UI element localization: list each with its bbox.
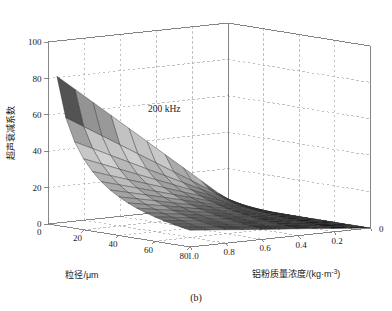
y-tick-0.6: 0.6 [259,243,271,253]
z-axis-title: 超声衰减系数 [5,106,16,160]
x-tick-40: 40 [109,239,119,249]
z-tick-80: 80 [33,74,43,84]
y-tick-0.2: 0.2 [331,236,342,246]
y-tick-0: 0 [379,224,384,234]
figure-3d-surface-plot: 1008060402002040608001.00.80.60.40.20 铝粉… [0,0,392,311]
surface-mesh [57,76,370,230]
y-axis-title: 铝粉质量浓度/(kg·m-3) [252,268,340,280]
x-tick-60: 60 [144,245,154,255]
x-axis-title: 粒径/μm [65,269,98,280]
y-tick-1.0: 1.0 [187,251,199,261]
y-tick-0.4: 0.4 [295,240,307,250]
y-tick-0.8: 0.8 [223,247,235,257]
z-tick-20: 20 [33,183,43,193]
z-tick-60: 60 [33,110,43,120]
surface-plot-svg: 1008060402002040608001.00.80.60.40.20 铝粉… [0,0,392,311]
x-tick-origin: 0 [37,227,42,237]
figure-caption: (b) [190,292,202,304]
z-tick-40: 40 [33,146,43,156]
x-tick-20: 20 [73,233,83,243]
z-tick-100: 100 [28,37,42,47]
annotation-200khz: 200 kHz [148,104,180,114]
y-axis-title-main: 铝粉质量浓度/(kg·m [252,268,332,279]
svg-text:铝粉质量浓度/(kg·m-3): 铝粉质量浓度/(kg·m-3) [252,268,340,280]
y-axis-title-tail: ) [337,269,340,279]
